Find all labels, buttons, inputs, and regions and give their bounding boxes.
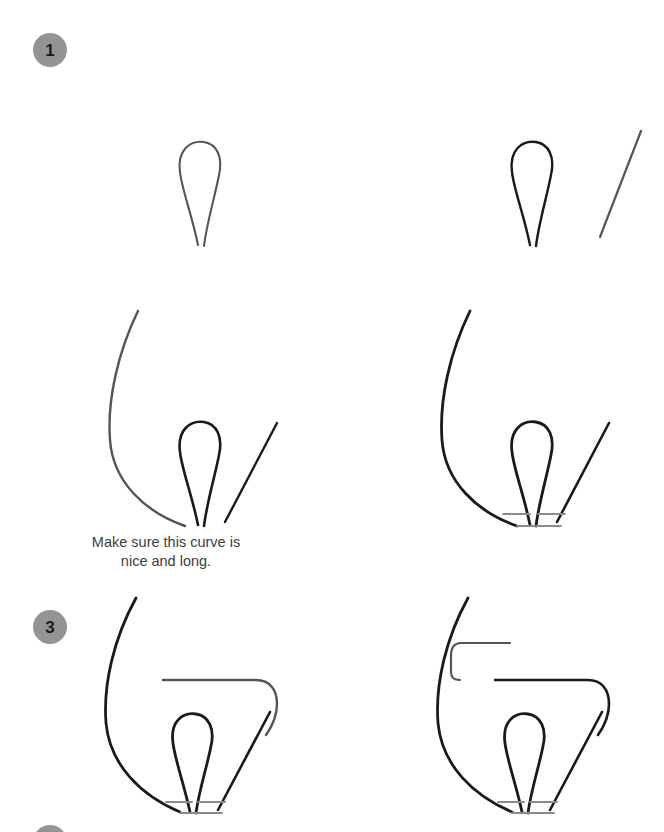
stroke-rear-diagonal-line	[225, 423, 277, 522]
caption-line-2: nice and long.	[0, 552, 332, 571]
caption-line-1: Make sure this curve is	[0, 533, 332, 552]
stroke-rear-diagonal-line	[218, 712, 270, 810]
stroke-front-leg-long-curve	[106, 598, 180, 812]
step-panel-1: 1	[0, 0, 332, 290]
stroke-front-leg-long-curve	[438, 598, 512, 812]
stroke-rear-diagonal-line	[557, 423, 609, 522]
stroke-hind-leg-loop	[512, 422, 553, 526]
stroke-rear-diagonal-line	[550, 712, 602, 810]
tutorial-sheet: 1 2 3 Make sure this curve is nice and l…	[0, 0, 664, 832]
step-panel-6: 6	[332, 580, 664, 832]
step-panel-5: 5	[0, 580, 332, 832]
stroke-hind-leg-loop	[173, 714, 213, 813]
stroke-hind-leg-loop	[180, 142, 221, 246]
step-badge-1: 1	[33, 33, 67, 67]
stroke-front-leg-long-curve	[110, 311, 185, 526]
step-2-drawing	[332, 0, 664, 290]
stroke-hind-leg-loop	[505, 714, 545, 813]
step-3-caption: Make sure this curve is nice and long.	[0, 533, 332, 570]
stroke-neck-line	[451, 643, 510, 680]
stroke-front-leg-long-curve	[442, 311, 517, 526]
stroke-back-line	[495, 680, 609, 735]
step-4-drawing	[332, 290, 664, 580]
stroke-hind-leg-loop	[180, 422, 221, 526]
step-panel-4: 4	[332, 290, 664, 580]
stroke-rear-diagonal-line	[600, 131, 641, 237]
step-6-drawing	[332, 580, 664, 832]
stroke-back-line	[163, 680, 277, 735]
stroke-hind-leg-loop	[512, 142, 553, 246]
step-5-drawing	[0, 580, 332, 832]
step-panel-2: 2	[332, 0, 664, 290]
